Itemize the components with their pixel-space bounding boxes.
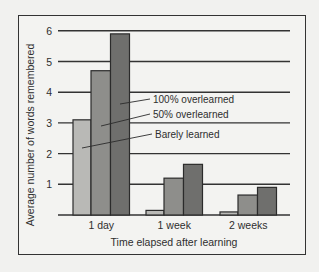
y-tick-labels: 123456 — [46, 25, 52, 191]
x-category-labels: 1 day1 week2 weeks — [88, 219, 267, 231]
annotation-label: 100% overlearned — [153, 94, 234, 105]
bar-chart: 123456 1 day1 week2 weeks 100% overlearn… — [0, 0, 319, 272]
bar-50-overlearned — [238, 195, 258, 215]
bar-barely-learned — [146, 210, 164, 215]
bar-50-overlearned — [164, 178, 184, 215]
y-tick-label: 2 — [46, 148, 52, 160]
x-axis-label: Time elapsed after learning — [111, 236, 238, 248]
bar-100-overlearned — [258, 187, 277, 215]
bar-100-overlearned — [111, 34, 130, 215]
y-tick-label: 4 — [46, 86, 52, 98]
annotation-label: 50% overlearned — [153, 109, 229, 120]
bar-100-overlearned — [184, 164, 203, 215]
x-category-label: 2 weeks — [229, 219, 268, 231]
y-tick-label: 6 — [46, 25, 52, 37]
bar-barely-learned — [73, 120, 91, 215]
y-axis-label: Average number of words remembered — [24, 44, 36, 227]
annotation-label: Barely learned — [155, 129, 219, 140]
y-tick-label: 1 — [46, 178, 52, 190]
x-category-label: 1 day — [88, 219, 114, 231]
x-category-label: 1 week — [158, 219, 192, 231]
y-tick-label: 3 — [46, 117, 52, 129]
bar-barely-learned — [220, 212, 238, 215]
y-tick-label: 5 — [46, 56, 52, 68]
